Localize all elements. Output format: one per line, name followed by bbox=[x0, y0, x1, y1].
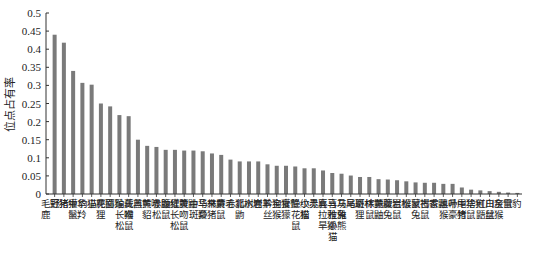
x-tick-label: 雪豹 bbox=[503, 198, 522, 209]
bar bbox=[154, 147, 158, 194]
svg-text:猫: 猫 bbox=[328, 231, 338, 242]
bar bbox=[53, 35, 57, 194]
svg-text:鼠: 鼠 bbox=[124, 220, 134, 231]
bar bbox=[256, 161, 260, 194]
bar bbox=[404, 181, 408, 194]
bar bbox=[136, 140, 140, 194]
y-tick-label: 0.45 bbox=[22, 25, 42, 37]
bar bbox=[80, 83, 84, 194]
bar bbox=[127, 116, 131, 194]
svg-text:鼠: 鼠 bbox=[420, 209, 430, 220]
svg-text:猪: 猪 bbox=[207, 209, 217, 220]
bar bbox=[238, 161, 242, 194]
bar bbox=[173, 150, 177, 194]
bar bbox=[330, 173, 334, 194]
bar bbox=[201, 151, 205, 194]
bar bbox=[191, 151, 195, 194]
bar bbox=[228, 160, 232, 194]
bar bbox=[90, 85, 94, 194]
bar bbox=[340, 174, 344, 194]
bar bbox=[265, 164, 269, 194]
bar bbox=[303, 168, 307, 194]
x-axis: 毛冠鹿野猪猪獾中华鬣羚豹猫小麂花面狸猕猴珀氏长吻松鼠藏酋猴黑熊黄喉貂赤腹松鼠鼬獾… bbox=[41, 194, 523, 242]
svg-text:兔: 兔 bbox=[337, 209, 347, 220]
y-tick-label: 0.15 bbox=[22, 134, 42, 146]
svg-text:狸: 狸 bbox=[96, 209, 106, 220]
bar bbox=[469, 190, 473, 194]
y-axis: 00.050.10.150.20.250.30.350.40.450.5 bbox=[22, 7, 49, 200]
svg-text:熊: 熊 bbox=[337, 220, 347, 231]
bar bbox=[367, 177, 371, 194]
bar bbox=[349, 176, 353, 194]
bar bbox=[164, 150, 168, 194]
bar bbox=[284, 166, 288, 194]
svg-text:鼠: 鼠 bbox=[291, 220, 301, 231]
bar bbox=[117, 115, 121, 194]
y-axis-label: 位点占有率 bbox=[3, 77, 17, 132]
bar bbox=[210, 153, 214, 194]
y-tick-label: 0.1 bbox=[27, 152, 41, 164]
svg-text:鼠: 鼠 bbox=[161, 209, 171, 220]
bar bbox=[321, 170, 325, 194]
svg-text:猴: 猴 bbox=[494, 209, 504, 220]
bar bbox=[386, 180, 390, 194]
bar bbox=[275, 166, 279, 194]
y-tick-label: 0.3 bbox=[27, 79, 41, 91]
bar bbox=[99, 104, 103, 195]
bar bbox=[460, 187, 464, 194]
bars bbox=[53, 35, 520, 194]
y-tick-label: 0.4 bbox=[27, 43, 41, 55]
bar bbox=[108, 106, 112, 194]
bar bbox=[441, 184, 445, 194]
y-tick-label: 0.2 bbox=[27, 116, 41, 128]
svg-text:鼠: 鼠 bbox=[392, 209, 402, 220]
bar bbox=[414, 182, 418, 194]
bar bbox=[182, 151, 186, 194]
bar bbox=[247, 161, 251, 194]
bar bbox=[358, 177, 362, 194]
svg-text:猫: 猫 bbox=[300, 209, 310, 220]
bar bbox=[219, 155, 223, 194]
bar-chart: 00.050.10.150.20.250.30.350.40.450.5 毛冠鹿… bbox=[0, 0, 534, 275]
bar bbox=[377, 179, 381, 194]
bar bbox=[312, 168, 316, 194]
bar bbox=[423, 183, 427, 194]
svg-text:羚: 羚 bbox=[77, 209, 87, 220]
svg-text:猴: 猴 bbox=[124, 209, 134, 220]
svg-text:猴: 猴 bbox=[272, 209, 282, 220]
svg-text:鼩: 鼩 bbox=[235, 209, 245, 220]
bar bbox=[478, 190, 482, 194]
y-tick-label: 0.5 bbox=[27, 7, 41, 19]
svg-text:鼠: 鼠 bbox=[216, 209, 226, 220]
svg-text:鹿: 鹿 bbox=[41, 209, 51, 220]
svg-text:鼠: 鼠 bbox=[466, 209, 476, 220]
bar bbox=[293, 166, 297, 194]
y-tick-label: 0.35 bbox=[22, 61, 42, 73]
bar bbox=[451, 184, 455, 194]
y-tick-label: 0.25 bbox=[22, 98, 42, 110]
bar bbox=[62, 43, 66, 194]
bar bbox=[145, 146, 149, 194]
svg-text:鼠: 鼠 bbox=[179, 220, 189, 231]
bar bbox=[71, 71, 75, 194]
svg-text:吻: 吻 bbox=[179, 209, 189, 220]
bar bbox=[432, 183, 436, 194]
svg-text:豹: 豹 bbox=[512, 198, 522, 209]
y-tick-label: 0.05 bbox=[22, 170, 42, 182]
bar bbox=[395, 180, 399, 194]
